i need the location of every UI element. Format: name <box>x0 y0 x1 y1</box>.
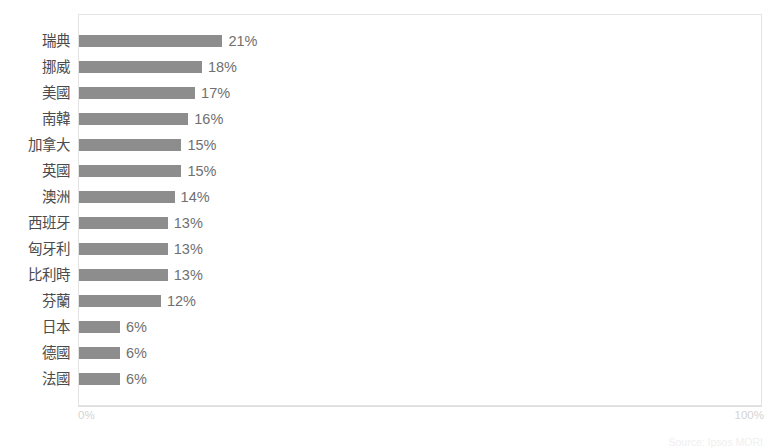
category-label: 比利時 <box>0 262 70 288</box>
bar <box>79 35 222 47</box>
chart-title <box>0 0 777 3</box>
bar-row: 澳洲14% <box>0 184 777 210</box>
category-label: 加拿大 <box>0 132 70 158</box>
bar-row: 比利時13% <box>0 262 777 288</box>
bar <box>79 139 181 151</box>
bar-value-label: 13% <box>174 210 203 236</box>
category-label: 瑞典 <box>0 28 70 54</box>
bar-row: 匈牙利13% <box>0 236 777 262</box>
bar-rows-container: 瑞典21%挪威18%美國17%南韓16%加拿大15%英國15%澳洲14%西班牙1… <box>0 14 777 406</box>
category-label: 美國 <box>0 80 70 106</box>
category-label: 法國 <box>0 366 70 392</box>
bar-row: 瑞典21% <box>0 28 777 54</box>
category-label: 日本 <box>0 314 70 340</box>
bar-value-label: 12% <box>167 288 196 314</box>
bar-value-label: 17% <box>201 80 230 106</box>
bar <box>79 61 202 73</box>
bar-row: 美國17% <box>0 80 777 106</box>
bar-row: 法國6% <box>0 366 777 392</box>
bar-row: 加拿大15% <box>0 132 777 158</box>
bar <box>79 165 181 177</box>
bar <box>79 113 188 125</box>
source-note: Source: Ipsos MORI <box>668 436 763 448</box>
bar-value-label: 13% <box>174 262 203 288</box>
bar-row: 德國6% <box>0 340 777 366</box>
bar-row: 英國15% <box>0 158 777 184</box>
bar-value-label: 15% <box>187 158 216 184</box>
bar-row: 西班牙13% <box>0 210 777 236</box>
bar-value-label: 18% <box>208 54 237 80</box>
bar-value-label: 13% <box>174 236 203 262</box>
bar-value-label: 6% <box>126 340 147 366</box>
bar <box>79 321 120 333</box>
bar <box>79 217 168 229</box>
category-label: 西班牙 <box>0 210 70 236</box>
category-label: 英國 <box>0 158 70 184</box>
bar-row: 芬蘭12% <box>0 288 777 314</box>
bar-value-label: 21% <box>228 28 257 54</box>
category-label: 匈牙利 <box>0 236 70 262</box>
category-label: 澳洲 <box>0 184 70 210</box>
bar-value-label: 16% <box>194 106 223 132</box>
bar-value-label: 14% <box>181 184 210 210</box>
x-axis-tick-min: 0% <box>78 409 95 421</box>
bar-value-label: 15% <box>187 132 216 158</box>
bar <box>79 373 120 385</box>
bar-value-label: 6% <box>126 366 147 392</box>
category-label: 德國 <box>0 340 70 366</box>
bar-row: 挪威18% <box>0 54 777 80</box>
x-axis-line <box>78 406 762 407</box>
bar-value-label: 6% <box>126 314 147 340</box>
bar <box>79 295 161 307</box>
category-label: 芬蘭 <box>0 288 70 314</box>
x-axis-tick-max: 100% <box>735 409 764 421</box>
bar <box>79 87 195 99</box>
bar-row: 南韓16% <box>0 106 777 132</box>
bar <box>79 347 120 359</box>
category-label: 南韓 <box>0 106 70 132</box>
bar <box>79 243 168 255</box>
bar <box>79 191 175 203</box>
bar-row: 日本6% <box>0 314 777 340</box>
category-label: 挪威 <box>0 54 70 80</box>
bar <box>79 269 168 281</box>
